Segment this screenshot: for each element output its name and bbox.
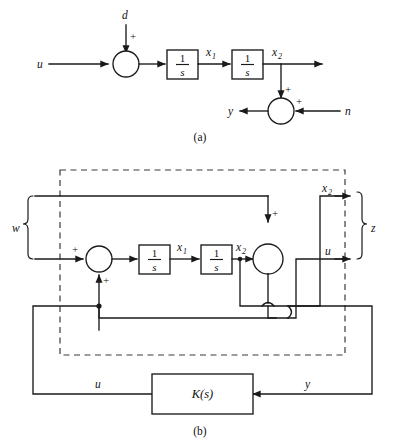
label-n: n: [345, 105, 351, 117]
controller-label: K(s): [191, 387, 214, 401]
brace-w: [23, 196, 33, 259]
label-x1-b: x: [176, 241, 183, 253]
panel-b: w + + + 1 s x 1 1: [12, 170, 376, 438]
label-x2-out-b-subscript: 2: [328, 188, 332, 197]
label-u-out-b: u: [325, 245, 331, 257]
label-x2-a-subscript: 2: [278, 52, 282, 61]
summing-junction-right-b: [253, 244, 283, 274]
summing-junction-left-b: [86, 246, 112, 272]
label-y-a: y: [227, 105, 234, 118]
label-y-b: y: [304, 378, 311, 391]
label-x1-subscript: 1: [212, 52, 216, 61]
caption-panel-b: (b): [193, 425, 207, 438]
label-w: w: [12, 222, 20, 234]
wire-u-branch-right: [99, 306, 276, 318]
summing-junction-y-n: [268, 98, 294, 124]
integrator-1-numerator: 1: [180, 52, 186, 64]
brace-z: [357, 192, 367, 259]
sign-plus-w-bottom: +: [72, 243, 78, 255]
block-diagram-svg: u d + 1 s x 1 1 s x 2: [0, 0, 400, 447]
integrator-2-denominator: s: [245, 66, 249, 78]
wire-u-to-z-output: [288, 259, 345, 318]
wire-u-from-controller: [33, 306, 152, 394]
sign-plus-w-top: +: [272, 207, 278, 219]
caption-panel-a: (a): [194, 131, 207, 144]
summing-junction-u-d: [113, 51, 139, 77]
integrator-2-b-numerator: 1: [214, 247, 220, 259]
integrator-1-denominator: s: [180, 66, 184, 78]
figure-container: u d + 1 s x 1 1 s x 2: [0, 0, 400, 447]
integrator-2-numerator: 1: [245, 52, 251, 64]
sign-plus-u-bottom: +: [103, 274, 109, 286]
label-x1: x: [205, 46, 212, 58]
label-x2-inner-b-subscript: 2: [242, 247, 246, 256]
sign-plus-x2-into-sum2: +: [285, 83, 291, 95]
label-u-fb-b: u: [95, 378, 101, 390]
label-u: u: [37, 58, 43, 70]
label-x2-inner-b: x: [235, 241, 242, 253]
wire-hop-y-over-u: [288, 306, 292, 318]
panel-a: u d + 1 s x 1 1 s x 2: [37, 9, 351, 144]
wire-y-path-segment-1: [268, 306, 288, 318]
label-d: d: [122, 9, 128, 21]
label-x2-a: x: [271, 46, 278, 58]
integrator-1-b-denominator: s: [152, 261, 156, 273]
integrator-1-b-numerator: 1: [152, 247, 158, 259]
label-x1-b-subscript: 1: [183, 247, 187, 256]
label-z: z: [370, 222, 376, 234]
sign-plus-d: +: [130, 30, 136, 42]
sign-plus-n: +: [296, 95, 302, 107]
integrator-2-b-denominator: s: [214, 261, 218, 273]
wire-y-to-controller: [253, 306, 372, 394]
label-x2-out-b: x: [321, 182, 328, 194]
